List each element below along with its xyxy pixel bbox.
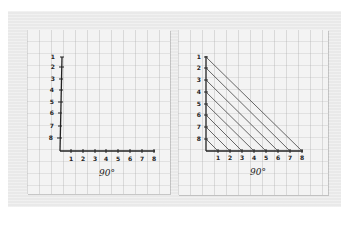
svg-text:7: 7 bbox=[197, 123, 201, 130]
svg-text:3: 3 bbox=[197, 76, 201, 83]
svg-text:2: 2 bbox=[51, 63, 55, 70]
y-axis-labels: 1 2 3 4 5 6 7 8 bbox=[49, 53, 55, 141]
svg-text:3: 3 bbox=[51, 75, 55, 82]
svg-text:6: 6 bbox=[276, 154, 280, 161]
svg-text:2: 2 bbox=[81, 155, 85, 162]
svg-text:1: 1 bbox=[216, 154, 220, 161]
graph-paper-left: 1 2 3 4 5 6 7 8 1 2 3 4 5 6 7 8 90° bbox=[27, 30, 170, 194]
svg-text:7: 7 bbox=[288, 154, 292, 161]
svg-text:5: 5 bbox=[50, 98, 54, 105]
svg-text:4: 4 bbox=[50, 86, 54, 93]
svg-text:5: 5 bbox=[116, 155, 120, 162]
graph-paper-right: 1 2 3 4 5 6 7 8 1 2 3 4 5 6 7 8 90° bbox=[178, 30, 328, 195]
svg-text:6: 6 bbox=[128, 155, 132, 162]
svg-text:7: 7 bbox=[140, 155, 144, 162]
svg-text:4: 4 bbox=[197, 88, 201, 95]
angle-label: 90° bbox=[250, 167, 266, 177]
svg-text:8: 8 bbox=[300, 154, 304, 161]
svg-text:1: 1 bbox=[51, 53, 55, 60]
svg-text:8: 8 bbox=[152, 155, 156, 162]
empty-axes-diagram: 1 2 3 4 5 6 7 8 1 2 3 4 5 6 7 8 90° bbox=[27, 30, 170, 194]
string-lines bbox=[206, 57, 302, 151]
svg-text:8: 8 bbox=[197, 135, 201, 142]
svg-text:1: 1 bbox=[197, 53, 201, 60]
svg-text:5: 5 bbox=[197, 100, 201, 107]
svg-text:3: 3 bbox=[93, 155, 97, 162]
svg-text:2: 2 bbox=[228, 154, 232, 161]
angle-label: 90° bbox=[99, 168, 115, 178]
svg-text:4: 4 bbox=[252, 154, 256, 161]
svg-text:1: 1 bbox=[69, 155, 73, 162]
string-art-diagram: 1 2 3 4 5 6 7 8 1 2 3 4 5 6 7 8 90° bbox=[178, 30, 328, 195]
x-axis-labels: 1 2 3 4 5 6 7 8 bbox=[216, 154, 304, 161]
svg-text:5: 5 bbox=[264, 154, 268, 161]
y-axis bbox=[60, 57, 62, 151]
svg-text:8: 8 bbox=[49, 134, 53, 141]
svg-text:4: 4 bbox=[104, 155, 108, 162]
svg-text:7: 7 bbox=[50, 122, 54, 129]
svg-text:6: 6 bbox=[50, 109, 54, 116]
y-axis-labels: 1 2 3 4 5 6 7 8 bbox=[197, 53, 201, 142]
svg-text:3: 3 bbox=[240, 154, 244, 161]
svg-text:6: 6 bbox=[197, 111, 201, 118]
x-axis-labels: 1 2 3 4 5 6 7 8 bbox=[69, 155, 156, 162]
svg-text:2: 2 bbox=[197, 64, 201, 71]
